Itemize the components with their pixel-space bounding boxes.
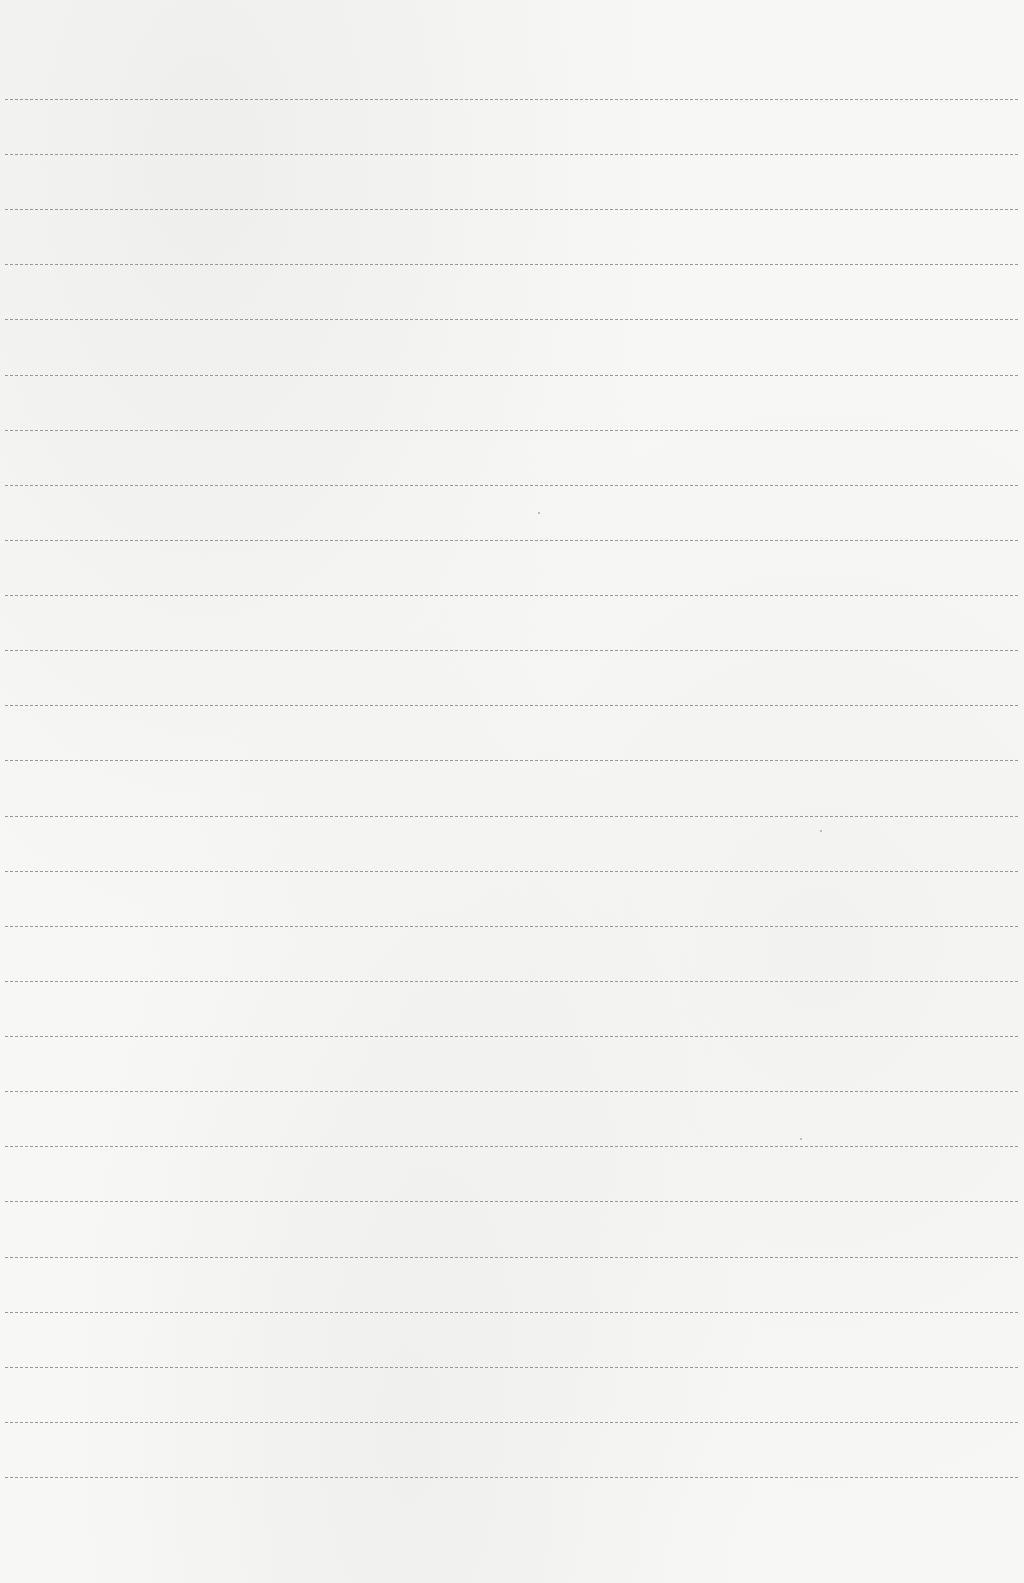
ruled-line [5,1367,1018,1368]
ruled-line [5,926,1018,927]
ruled-line [5,99,1018,100]
ruled-line [5,1257,1018,1258]
ruled-line [5,650,1018,651]
ruled-line [5,1201,1018,1202]
ruled-line [5,209,1018,210]
ruled-line [5,871,1018,872]
ruled-line [5,1312,1018,1313]
ruled-line [5,705,1018,706]
paper-speck [820,830,822,832]
ruled-line [5,981,1018,982]
ruled-line [5,1422,1018,1423]
ruled-line [5,430,1018,431]
ruled-line [5,154,1018,155]
ruled-line [5,1036,1018,1037]
ruled-line [5,816,1018,817]
ruled-line [5,1146,1018,1147]
ruled-line [5,264,1018,265]
lined-paper-sheet [0,0,1024,1583]
ruled-line [5,760,1018,761]
ruled-line [5,375,1018,376]
ruled-line [5,1477,1018,1478]
ruled-line [5,319,1018,320]
ruled-line [5,595,1018,596]
paper-speck [538,512,540,514]
ruled-line [5,540,1018,541]
ruled-line [5,1091,1018,1092]
paper-speck [800,1138,802,1140]
ruled-line [5,485,1018,486]
